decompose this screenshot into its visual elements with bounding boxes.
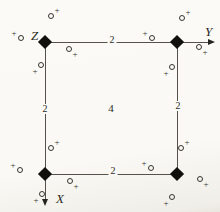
plus-height-sign: + — [32, 67, 37, 76]
space-group-diagram: Z Y X 4 ++++++++++++++++2222 — [0, 0, 220, 212]
general-position-circle — [48, 13, 54, 19]
twofold-axis-label: 2 — [108, 35, 117, 45]
x-axis-arrowhead-icon — [42, 199, 48, 206]
fourfold-axis-symbol — [170, 167, 184, 181]
plus-height-sign: + — [163, 199, 168, 208]
fourfold-axis-symbol — [38, 35, 52, 49]
general-position-circle — [169, 64, 175, 70]
plus-height-sign: + — [73, 182, 78, 191]
fourfold-axis-symbol — [38, 167, 52, 181]
plus-height-sign: + — [54, 6, 59, 15]
general-position-circle — [17, 167, 23, 173]
plus-height-sign: + — [33, 196, 38, 205]
general-position-circle — [196, 44, 202, 50]
plus-height-sign: + — [11, 29, 16, 38]
general-position-circle — [148, 165, 154, 171]
general-position-circle — [179, 15, 185, 21]
general-position-circle — [48, 145, 54, 151]
fourfold-center-label: 4 — [106, 103, 116, 113]
y-axis-label: Y — [205, 25, 212, 39]
general-position-circle — [38, 62, 44, 68]
plus-height-sign: + — [10, 161, 15, 170]
general-position-circle — [39, 191, 45, 197]
twofold-axis-label: 2 — [41, 104, 50, 114]
plus-height-sign: + — [184, 138, 189, 147]
y-axis-arrowhead-icon — [208, 39, 215, 45]
plus-height-sign: + — [203, 180, 208, 189]
general-position-circle — [18, 35, 24, 41]
plus-height-sign: + — [54, 138, 59, 147]
general-position-circle — [67, 178, 73, 184]
twofold-axis-label: 2 — [174, 101, 183, 111]
plus-height-sign: + — [202, 48, 207, 57]
general-position-circle — [178, 145, 184, 151]
general-position-circle — [197, 176, 203, 182]
plus-height-sign: + — [141, 159, 146, 168]
plus-height-sign: + — [163, 69, 168, 78]
twofold-axis-label: 2 — [109, 166, 118, 176]
plus-height-sign: + — [185, 8, 190, 17]
plus-height-sign: + — [72, 50, 77, 59]
general-position-circle — [66, 46, 72, 52]
general-position-circle — [149, 35, 155, 41]
plus-height-sign: + — [142, 29, 147, 38]
x-axis-label: X — [56, 192, 64, 206]
general-position-circle — [169, 194, 175, 200]
fourfold-axis-symbol — [170, 35, 184, 49]
